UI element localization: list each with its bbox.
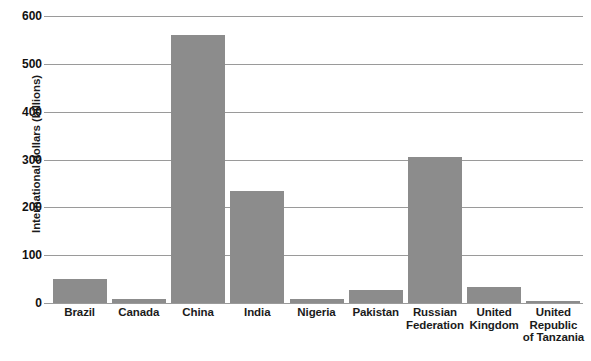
y-tick-label: 600: [4, 10, 42, 22]
y-gridline: 0: [50, 303, 583, 304]
x-tick-label: UnitedRepublicof Tanzania: [519, 306, 588, 344]
y-tick-label: 200: [4, 201, 42, 213]
bar: [112, 299, 166, 303]
bar: [230, 191, 284, 303]
bar-chart: International dollars (billions) 0100200…: [0, 0, 591, 361]
bar: [53, 279, 107, 303]
bar-series: [50, 16, 583, 303]
y-tick-label: 0: [4, 297, 42, 309]
bar: [408, 157, 462, 303]
x-axis-labels: BrazilCanadaChinaIndiaNigeriaPakistanRus…: [50, 306, 583, 361]
y-tick-mark: [44, 303, 50, 304]
y-tick-label: 300: [4, 154, 42, 166]
x-tick-label-line: Republic: [519, 319, 588, 332]
gridline: [50, 303, 583, 304]
bar: [349, 290, 403, 303]
y-tick-label: 100: [4, 249, 42, 261]
bar: [171, 35, 225, 303]
bar: [526, 301, 580, 303]
x-tick-label-line: United: [519, 306, 588, 319]
bar: [290, 299, 344, 303]
bar: [467, 287, 521, 303]
x-tick-label-line: of Tanzania: [519, 331, 588, 344]
y-tick-label: 500: [4, 58, 42, 70]
y-tick-label: 400: [4, 106, 42, 118]
plot-area: 0100200300400500600: [50, 16, 583, 303]
